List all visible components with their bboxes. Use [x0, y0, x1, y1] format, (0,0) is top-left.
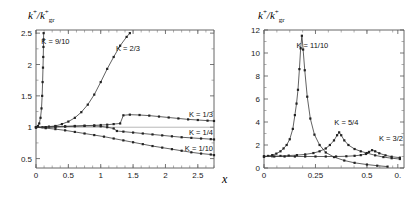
data-point-marker — [142, 132, 144, 134]
data-point-marker — [374, 150, 376, 152]
data-point-marker — [122, 114, 124, 116]
data-point-marker — [43, 32, 45, 34]
data-point-marker — [391, 156, 393, 158]
data-point-marker — [318, 144, 320, 146]
data-point-marker — [181, 136, 183, 138]
data-point-marker — [343, 139, 345, 141]
data-point-marker — [304, 153, 306, 155]
x-tick-label: 0.25 — [308, 171, 324, 180]
x-tick-label: 0. — [394, 171, 401, 180]
data-point-marker — [206, 120, 208, 122]
data-point-marker — [74, 125, 76, 127]
data-point-marker — [106, 126, 108, 128]
data-point-marker — [292, 128, 294, 130]
data-point-marker — [38, 122, 40, 124]
data-point-marker — [122, 139, 124, 141]
data-point-marker — [365, 153, 367, 155]
data-point-marker — [399, 157, 401, 159]
data-point-marker — [294, 114, 296, 116]
data-point-marker — [168, 116, 170, 118]
y-tick-label: 2.5 — [21, 29, 33, 38]
data-point-marker — [314, 155, 316, 157]
data-point-marker — [213, 138, 215, 140]
data-point-marker — [113, 56, 115, 58]
data-point-marker — [83, 132, 85, 134]
data-point-marker — [353, 148, 355, 150]
data-point-marker — [304, 155, 306, 157]
data-point-marker — [296, 154, 298, 156]
curve-annotation-label: K = 11/10 — [296, 41, 328, 50]
data-point-marker — [129, 32, 131, 34]
data-point-marker — [325, 155, 327, 157]
data-point-marker — [338, 131, 340, 133]
data-point-marker — [200, 137, 202, 139]
data-point-marker — [106, 68, 108, 70]
data-point-marker — [132, 141, 134, 143]
x-tick-label: 0.5 — [63, 171, 75, 180]
data-point-marker — [378, 152, 380, 154]
data-point-marker — [54, 128, 56, 130]
figure-container: k+/k+gr 0.511.522.500.511.522.5K = 9/10K… — [0, 0, 406, 197]
curve-annotation-label: K = 9/10 — [41, 37, 69, 46]
data-point-marker — [100, 81, 102, 83]
data-point-marker — [93, 94, 95, 96]
y-tick-label: 2 — [28, 61, 33, 70]
data-point-marker — [181, 150, 183, 152]
right-panel: k+/k+gr 02468101200.250.50.K = 11/10K = … — [228, 0, 406, 197]
data-point-marker — [312, 152, 314, 154]
data-point-marker — [103, 136, 105, 138]
data-point-marker — [87, 104, 89, 106]
data-point-marker — [161, 134, 163, 136]
data-point-marker — [39, 117, 41, 119]
data-point-marker — [119, 122, 121, 124]
left-panel: k+/k+gr 0.511.522.500.511.522.5K = 9/10K… — [0, 0, 230, 197]
data-point-marker — [263, 155, 265, 157]
data-point-marker — [289, 138, 291, 140]
data-point-marker — [279, 150, 281, 152]
data-point-marker — [142, 143, 144, 145]
x-tick-label: 0 — [34, 171, 39, 180]
data-point-marker — [93, 125, 95, 127]
data-point-marker — [297, 89, 299, 91]
y-tick-label: 10 — [251, 49, 260, 58]
data-point-marker — [384, 154, 386, 156]
data-point-marker — [197, 119, 199, 121]
data-point-marker — [116, 130, 118, 132]
data-point-marker — [286, 144, 288, 146]
data-point-marker — [298, 68, 300, 70]
left-panel-plot: 0.511.522.500.511.522.5K = 9/10K = 2/3K … — [0, 0, 230, 197]
data-point-marker — [325, 147, 327, 149]
data-point-marker — [106, 124, 108, 126]
x-tick-label: 2.5 — [192, 171, 204, 180]
data-point-marker — [177, 117, 179, 119]
data-point-marker — [294, 155, 296, 157]
data-point-marker — [67, 120, 69, 122]
y-tick-label: 1.5 — [21, 92, 33, 101]
data-point-marker — [213, 120, 215, 122]
data-point-marker — [41, 95, 43, 97]
data-point-marker — [325, 151, 327, 153]
curve-annotation-label: K = 5/4 — [334, 118, 358, 127]
data-point-marker — [336, 134, 338, 136]
data-point-marker — [213, 154, 215, 156]
data-point-marker — [45, 127, 47, 129]
curve-annotation-label: K = 1/4 — [189, 128, 213, 137]
data-point-marker — [347, 144, 349, 146]
data-point-marker — [345, 155, 347, 157]
data-point-marker — [158, 115, 160, 117]
data-point-marker — [210, 138, 212, 140]
x-tick-label: 1 — [99, 171, 104, 180]
data-point-marker — [318, 150, 320, 152]
data-point-marker — [282, 147, 284, 149]
data-point-marker — [40, 107, 42, 109]
right-panel-y-axis-label: k+/k+gr — [258, 8, 285, 24]
data-point-marker — [42, 56, 44, 58]
data-point-marker — [295, 103, 297, 105]
y-tick-label: 2 — [256, 141, 261, 150]
data-curve — [36, 126, 214, 139]
data-point-marker — [275, 153, 277, 155]
y-tick-label: 8 — [256, 72, 261, 81]
data-point-marker — [54, 126, 56, 128]
data-point-marker — [329, 144, 331, 146]
data-curve — [264, 36, 388, 167]
